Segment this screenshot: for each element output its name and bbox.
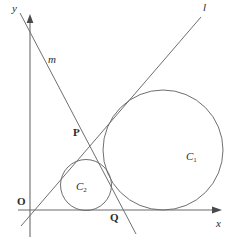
circle-c2-label-sub: 2 (83, 186, 87, 194)
x-axis-label: x (216, 218, 221, 229)
point-p-label: P (73, 127, 80, 138)
circle-c1 (103, 90, 223, 210)
circle-c1-label: C1 (186, 151, 197, 162)
point-q-label: Q (110, 212, 119, 223)
circle-c2-label: C2 (76, 181, 87, 192)
line-m (20, 13, 136, 234)
y-axis-arrowhead (27, 14, 34, 23)
y-axis-label: y (12, 3, 17, 14)
origin-label: O (17, 196, 26, 207)
line-l (21, 17, 201, 226)
line-m-label: m (48, 54, 56, 65)
line-l-label: l (203, 2, 206, 13)
geometry-diagram: y x O l m P Q C1 C2 (0, 0, 232, 243)
x-axis-arrowhead (212, 206, 222, 213)
circle-c1-label-sub: 1 (193, 156, 197, 164)
diagram-canvas (0, 0, 232, 243)
